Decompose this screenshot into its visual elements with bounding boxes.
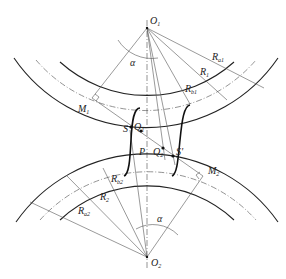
gear1-pitch-circle: [36, 60, 256, 111]
label-s-prime: S': [176, 146, 184, 157]
label-r2: R2: [99, 191, 109, 203]
point-s-prime: [171, 154, 174, 157]
line-of-action: [92, 98, 203, 176]
tooth-profile-left: [124, 108, 140, 176]
point-o2: [146, 256, 148, 258]
line-o2-m2: [147, 176, 203, 257]
alpha-arc-bottom: [136, 225, 178, 235]
point-o1: [146, 27, 148, 29]
radius-rb1: [147, 28, 190, 104]
label-ra1: Ra1: [211, 51, 224, 63]
right-angle-m2: [196, 172, 200, 179]
label-o2: O2: [151, 257, 161, 269]
label-s: S: [123, 123, 128, 134]
gear1-addendum-circle: [14, 58, 278, 128]
label-m2: M2: [207, 165, 219, 177]
tooth-profile-right: [172, 105, 190, 176]
gear-mesh-diagram: O1 α Ra1 R1 Rb1 M1 S Q1 P Q2 S' M2 Rb2 R…: [0, 0, 286, 279]
label-m1: M1: [77, 103, 89, 115]
label-alpha-top: α: [130, 57, 136, 68]
label-rb1: Rb1: [184, 83, 197, 95]
line-o1-s-prime: [147, 28, 175, 165]
label-ra2: Ra2: [77, 205, 90, 217]
gear2-pitch-circle: [40, 172, 256, 220]
point-s: [129, 125, 132, 128]
point-q2: [161, 146, 164, 149]
radius-r2: [66, 175, 147, 257]
label-o1: O1: [150, 15, 160, 27]
radius-ra1: [147, 28, 264, 88]
label-rb2: Rb2: [110, 173, 123, 185]
label-p: P: [138, 146, 145, 157]
right-angle-m1: [95, 94, 99, 101]
line-o1-m1: [92, 28, 147, 98]
label-q1: Q1: [134, 121, 144, 133]
radius-rb2: [103, 168, 147, 257]
label-r1: R1: [199, 66, 209, 78]
alpha-arc-top: [118, 40, 158, 58]
label-alpha-bottom: α: [157, 213, 163, 224]
